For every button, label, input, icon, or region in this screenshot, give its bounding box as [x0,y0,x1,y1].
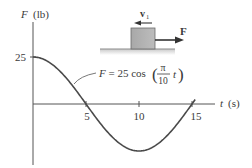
y-tick-label: 25 [15,51,27,63]
equation-denominator: 10 [158,76,168,86]
equation-left-paren: ( [152,65,158,84]
equation-var: t [173,68,177,80]
y-axis-label-var: F [20,8,28,20]
equation-right-paren: ) [178,65,184,84]
x-axis-label-unit: (s) [228,97,240,110]
force-arrow-head-icon [175,37,184,44]
velocity-arrow-head-icon [134,21,141,26]
x-axis-label-var: t [220,97,224,109]
equation: F = 25 cos ( π 10 t ) [98,62,184,86]
equation-numerator: π [160,62,165,73]
figure-canvas: 25 5 10 15 F (lb) t (s) F = 25 cos ( π 1… [0,0,252,168]
ground-shading [100,49,175,55]
x-tick-label-15: 15 [191,110,203,122]
block-illustration: v 1 F [100,8,187,55]
velocity-label: v [140,8,145,19]
y-axis-label-unit: (lb) [33,8,49,21]
x-tick-label-10: 10 [134,110,146,122]
force-label: F [180,25,187,37]
x-tick-label-5: 5 [84,110,90,122]
velocity-subscript: 1 [146,13,149,20]
equation-leader-line [74,73,96,84]
block [131,28,155,49]
equation-lhs: F = 25 cos [98,67,146,79]
